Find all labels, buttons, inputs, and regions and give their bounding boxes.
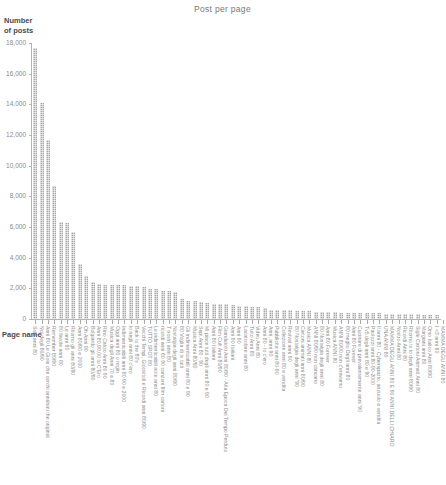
x-tick-label: Musica Anni 80/90 bbox=[191, 326, 197, 368]
bar bbox=[186, 301, 190, 319]
bar bbox=[403, 314, 407, 319]
bar bbox=[129, 286, 133, 319]
x-tick-label: Gli indimenticabili anni 80 e 90 bbox=[185, 326, 191, 397]
x-tick-label: ricordi anni 60 90 canzoni film cartoni bbox=[159, 326, 165, 412]
x-tick-label: TUTTO SPOT 80 bbox=[146, 326, 152, 366]
x-tick-mark bbox=[48, 320, 49, 324]
x-tick-label: Musica ANNI 80 bbox=[306, 326, 312, 363]
bar bbox=[59, 222, 63, 319]
x-tick-label: Indimenticabili anni 80 90 e 2000 bbox=[121, 326, 127, 402]
x-tick-label: Ritorno tv lo degli anni 80/90 bbox=[408, 326, 414, 392]
x-tick-mark bbox=[54, 320, 55, 324]
x-tick-label: Musica ANNI 80 bbox=[331, 326, 337, 363]
bar bbox=[52, 186, 56, 319]
x-tick-label: 80 meglio Degli anni 80 bbox=[344, 326, 350, 380]
x-tick-label: T nostri anni 80 bbox=[165, 326, 171, 362]
x-tick-mark bbox=[73, 320, 74, 324]
x-tick-mark bbox=[392, 320, 393, 324]
x-tick-label: Cartoni animati anni 80/90 bbox=[299, 326, 305, 387]
y-tick-label: 18,000 bbox=[0, 39, 26, 46]
x-tick-label: Anni, anni 90 bbox=[267, 326, 273, 356]
x-tick-label: Nostalgia degli anni 80/90 bbox=[172, 326, 178, 386]
x-tick-mark bbox=[386, 320, 387, 324]
bar bbox=[148, 289, 152, 319]
x-tick-label: Back to the 80's bbox=[134, 326, 140, 363]
bar bbox=[358, 313, 362, 319]
x-tick-label: Bolgiardo gli anni 80/90 bbox=[89, 326, 95, 380]
bar bbox=[116, 285, 120, 319]
x-tick-label: Film Cult Anni 80/90 bbox=[216, 326, 222, 373]
bar bbox=[384, 314, 388, 319]
x-tick-label: Pubblicita anni 80-90 bbox=[274, 326, 280, 375]
x-tick-label: Sept Anni 80 - 90 bbox=[197, 326, 203, 366]
x-tick-label: Cucinare di prevalentemente anni '90 bbox=[357, 326, 363, 412]
x-tick-mark bbox=[418, 320, 419, 324]
plot-area bbox=[32, 43, 440, 319]
bar bbox=[397, 314, 401, 319]
x-tick-mark bbox=[182, 320, 183, 324]
x-tick-label: 80 Nostalgia degli anni '90 bbox=[293, 326, 299, 387]
x-tick-label: Sigle Cartoni Animati Anni 80 bbox=[414, 326, 420, 393]
y-tick-label: 0 bbox=[0, 315, 26, 322]
bar bbox=[167, 291, 171, 319]
x-tick-label: Margiani anni 80 bbox=[420, 326, 426, 364]
bar bbox=[365, 313, 369, 319]
x-tick-mark bbox=[367, 320, 368, 324]
bar bbox=[295, 311, 299, 319]
x-tick-mark bbox=[201, 320, 202, 324]
x-tick-label: Remember 80/90 bbox=[51, 326, 57, 366]
x-tick-mark bbox=[80, 320, 81, 324]
bar bbox=[205, 303, 209, 319]
bar bbox=[46, 140, 50, 319]
x-tick-mark bbox=[105, 320, 106, 324]
x-tick-mark bbox=[265, 320, 266, 324]
x-tick-label: Anni 80 Forever bbox=[350, 326, 356, 363]
bar bbox=[237, 306, 241, 319]
x-tick-label: 80 Voglia di tv tutti bbox=[178, 326, 184, 368]
bar bbox=[326, 312, 330, 319]
x-tick-mark bbox=[163, 320, 164, 324]
x-tick-mark bbox=[112, 320, 113, 324]
bar bbox=[40, 103, 44, 319]
x-tick-mark bbox=[379, 320, 380, 324]
bar bbox=[288, 310, 292, 319]
x-axis-ticks bbox=[32, 320, 440, 325]
y-axis-label-line2: of posts bbox=[4, 26, 48, 36]
x-tick-label: Il anni 80 - Cyberspazio, anzuolo e vend… bbox=[376, 326, 382, 424]
x-tick-label: Oggi anni 80 o regin bbox=[114, 326, 120, 373]
bar bbox=[161, 291, 165, 319]
x-tick-label: Vecchi Tempi, Giocattoli e Ricordi anni … bbox=[140, 326, 146, 429]
bar bbox=[65, 223, 69, 319]
x-tick-label: Collezione anni 80 e vendita bbox=[280, 326, 286, 391]
x-tick-mark bbox=[137, 320, 138, 324]
bar bbox=[103, 285, 107, 320]
y-tick-label: 10,000 bbox=[0, 162, 26, 169]
x-tick-mark bbox=[150, 320, 151, 324]
bar bbox=[122, 285, 126, 319]
bar bbox=[409, 314, 413, 319]
bar bbox=[352, 313, 356, 319]
x-tick-mark bbox=[118, 320, 119, 324]
bar bbox=[71, 232, 75, 319]
bar bbox=[428, 315, 432, 319]
x-tick-mark bbox=[239, 320, 240, 324]
bar bbox=[282, 310, 286, 319]
x-tick-mark bbox=[246, 320, 247, 324]
bar bbox=[91, 282, 95, 319]
x-tick-mark bbox=[220, 320, 221, 324]
bar bbox=[110, 285, 114, 319]
bar bbox=[97, 284, 101, 319]
x-tick-mark bbox=[316, 320, 317, 324]
x-tick-mark bbox=[322, 320, 323, 324]
y-tick-label: 8,000 bbox=[0, 192, 26, 199]
x-tick-mark bbox=[284, 320, 285, 324]
x-tick-mark bbox=[42, 320, 43, 324]
bar bbox=[256, 307, 260, 319]
x-tick-label: Musica degli Anni 70 e 80 bbox=[108, 326, 114, 385]
x-tick-label: UNA ANNI 80 bbox=[382, 326, 388, 357]
bar bbox=[377, 313, 381, 319]
x-tick-label: Anni 80 - lo c'ero bbox=[261, 326, 267, 365]
x-tick-mark bbox=[144, 320, 145, 324]
x-tick-mark bbox=[175, 320, 176, 324]
bar bbox=[422, 315, 426, 319]
